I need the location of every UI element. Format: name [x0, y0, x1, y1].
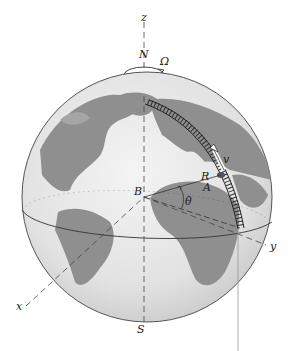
diagram-canvas: z N Ω S x y B R A θ v — [0, 0, 293, 351]
x-axis-label: x — [16, 300, 23, 313]
center-label: B — [133, 185, 142, 198]
y-axis-label: y — [269, 240, 277, 253]
z-axis-label: z — [140, 11, 147, 24]
theta-label: θ — [185, 195, 192, 208]
velocity-label: v — [223, 153, 230, 166]
globe — [22, 72, 272, 322]
north-label: N — [138, 48, 149, 61]
earth-diagram: z N Ω S x y B R A θ v — [0, 0, 293, 351]
point-A-label: A — [202, 181, 211, 194]
south-label: S — [137, 323, 145, 336]
omega-label: Ω — [159, 55, 169, 68]
